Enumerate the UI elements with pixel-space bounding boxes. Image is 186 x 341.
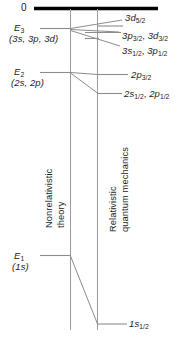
level-states-e2-text: (2s, 2p) xyxy=(11,77,44,88)
term-j: 3/2 xyxy=(142,74,151,81)
term-j: 1/2 xyxy=(134,93,143,100)
level-states-e3: (3s, 3p, 3d) xyxy=(9,33,58,44)
term-orbital: 2p xyxy=(149,88,160,99)
column-caption-relativistic-line1: Relativistic xyxy=(108,186,118,232)
term-label-2p32: 2p3/2 xyxy=(131,69,151,80)
level-label-e3: E3 xyxy=(14,22,24,33)
term-label-1s12: 1s1/2 xyxy=(129,318,149,329)
level-states-e3-text: (3s, 3p, 3d) xyxy=(9,33,58,44)
term-orbital: 3d xyxy=(125,12,136,23)
connector-e3-3d52 xyxy=(71,20,123,29)
term-j: 3/2 xyxy=(159,35,168,42)
term-label-3p32-3d32: 3p3/2, 3d3/2 xyxy=(122,30,168,41)
energy-level-diagram: 0 E3 (3s, 3p, 3d) E2 (2s, 2p) E1 (1s) 3d… xyxy=(0,0,186,341)
term-label-3d52: 3d5/2 xyxy=(125,12,145,23)
connector-e2-2p32 xyxy=(71,73,99,75)
term-orbital: 3p xyxy=(147,45,158,56)
term-j: 5/2 xyxy=(136,17,145,24)
connector-e3-3p32 xyxy=(71,30,120,33)
zero-label: 0 xyxy=(21,2,27,14)
term-j: 1/2 xyxy=(132,50,141,57)
term-orbital: 3p xyxy=(122,30,133,41)
level-states-e2: (2s, 2p) xyxy=(11,77,44,88)
term-j: 1/2 xyxy=(139,323,148,330)
column-caption-nonrelativistic-line1: Nonrelativistic xyxy=(44,169,54,228)
column-caption-nonrelativistic-line2: theory xyxy=(56,202,66,228)
column-caption-relativistic-line2: quantum mechanics xyxy=(120,147,130,232)
level-label-e1: E1 xyxy=(14,250,24,261)
term-j: 3/2 xyxy=(133,35,142,42)
level-label-e2: E2 xyxy=(14,66,24,77)
level-states-e1: (1s) xyxy=(12,261,29,272)
term-j: 1/2 xyxy=(160,93,169,100)
level-states-e1-text: (1s) xyxy=(12,261,29,272)
connector-e1-1s12 xyxy=(71,256,98,324)
term-orbital: 2s xyxy=(124,88,134,99)
term-orbital: 3d xyxy=(148,30,159,41)
connector-e2-2s12 xyxy=(71,73,99,94)
term-label-2s12-2p12: 2s1/2, 2p1/2 xyxy=(124,88,169,99)
term-label-3s12-3p12: 3s1/2, 3p1/2 xyxy=(122,45,167,56)
term-orbital: 1s xyxy=(129,318,139,329)
term-orbital: 3s xyxy=(122,45,132,56)
term-orbital: 2p xyxy=(131,69,142,80)
term-j: 1/2 xyxy=(158,50,167,57)
